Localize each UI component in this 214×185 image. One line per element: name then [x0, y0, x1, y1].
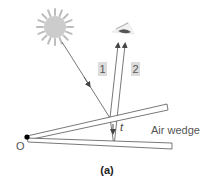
reflected-ray-1 [110, 45, 118, 118]
sun-icon [37, 9, 73, 45]
air-wedge-diagram: 1 2 t Air wedge O (a) [0, 0, 214, 185]
wedge-label: Air wedge [151, 124, 200, 136]
figure-caption: (a) [0, 164, 214, 176]
thickness-label: t [120, 121, 123, 133]
upper-plate [27, 104, 168, 140]
vertex-dot [24, 134, 29, 139]
vertex-label: O [16, 140, 25, 152]
ray-label-2: 2 [131, 62, 140, 76]
lower-plate [27, 138, 172, 149]
eye-icon [112, 22, 134, 34]
ray-label-1: 1 [98, 62, 107, 76]
